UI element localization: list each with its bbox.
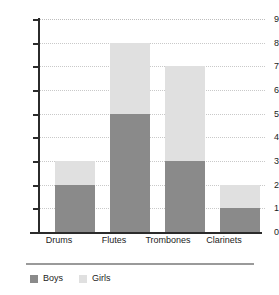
- bar-segment-flutes-girls[interactable]: [110, 43, 150, 114]
- y-tick-label-9: 9: [253, 15, 279, 24]
- bar-segment-drums-girls[interactable]: [55, 161, 95, 185]
- y-tick-label-4: 4: [253, 133, 279, 142]
- y-tick-label-7: 7: [253, 62, 279, 71]
- y-tick-mark-4: [33, 137, 39, 139]
- chart-legend: Boys Girls: [30, 274, 111, 283]
- y-tick-label-1: 1: [253, 204, 279, 213]
- gridline-7: [39, 66, 265, 67]
- plot-wrapper: 9 8 7 6 5 4 3 2 1 0 Drums Flutes Trombon…: [0, 0, 279, 252]
- y-tick-mark-1: [33, 208, 39, 210]
- gridline-6: [39, 90, 265, 91]
- y-tick-label-0: 0: [253, 228, 279, 237]
- bar-segment-drums-boys[interactable]: [55, 185, 95, 232]
- y-tick-mark-0: [33, 232, 39, 234]
- gridline-9: [39, 19, 265, 20]
- legend-separator: [26, 263, 254, 265]
- bar-segment-trombones-boys[interactable]: [165, 161, 205, 232]
- x-tick-label-drums: Drums: [35, 236, 83, 245]
- legend-swatch-boys-icon: [30, 275, 38, 283]
- gridline-5: [39, 114, 265, 115]
- y-tick-mark-2: [33, 185, 39, 187]
- y-tick-label-3: 3: [253, 157, 279, 166]
- legend-swatch-girls-icon: [79, 275, 87, 283]
- y-tick-label-2: 2: [253, 180, 279, 189]
- bar-group-trombones[interactable]: [165, 66, 205, 232]
- y-tick-mark-7: [33, 66, 39, 68]
- y-tick-mark-8: [33, 43, 39, 45]
- legend-label-girls: Girls: [92, 274, 111, 283]
- y-tick-label-8: 8: [253, 38, 279, 47]
- bar-group-flutes[interactable]: [110, 43, 150, 232]
- stacked-bar-chart: 9 8 7 6 5 4 3 2 1 0 Drums Flutes Trombon…: [0, 0, 279, 295]
- gridline-4: [39, 137, 265, 138]
- y-tick-mark-5: [33, 114, 39, 116]
- y-tick-label-6: 6: [253, 86, 279, 95]
- y-tick-label-5: 5: [253, 109, 279, 118]
- bar-group-drums[interactable]: [55, 161, 95, 232]
- x-axis-line: [30, 232, 262, 234]
- y-axis-line: [38, 18, 40, 233]
- plot-area: [39, 19, 265, 232]
- legend-item-girls[interactable]: Girls: [79, 274, 111, 283]
- x-tick-label-flutes: Flutes: [90, 236, 138, 245]
- y-tick-mark-9: [33, 19, 39, 21]
- gridline-8: [39, 43, 265, 44]
- legend-label-boys: Boys: [43, 274, 63, 283]
- y-tick-mark-6: [33, 90, 39, 92]
- y-tick-mark-3: [33, 161, 39, 163]
- x-tick-label-trombones: Trombones: [139, 236, 197, 245]
- legend-item-boys[interactable]: Boys: [30, 274, 63, 283]
- x-tick-label-clarinets: Clarinets: [197, 236, 251, 245]
- bar-segment-flutes-boys[interactable]: [110, 114, 150, 232]
- bar-segment-trombones-girls[interactable]: [165, 66, 205, 161]
